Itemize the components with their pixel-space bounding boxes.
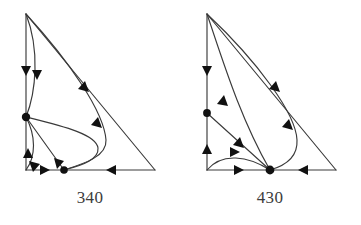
node-left-middle (22, 113, 30, 121)
directed-graph-430 (180, 0, 360, 185)
arrowhead-down-vertical-edge (202, 66, 212, 76)
edge-apex-to-bottomright (26, 14, 155, 170)
arrowhead-right-lower-bulge (230, 147, 240, 157)
caption-340: 340 (0, 188, 180, 208)
node-bottom-inner (266, 166, 275, 175)
edge-apex-to-bottomright (207, 14, 336, 170)
arrowhead-left-baseline (298, 165, 308, 175)
caption-430: 430 (180, 188, 360, 208)
arrowhead-right-baseline-inner (234, 165, 244, 175)
arrowhead-up-vertical-lower (202, 144, 212, 154)
diagram-panel-340: 340 (0, 0, 180, 225)
arrowhead-down-apex-curve (217, 95, 228, 106)
edge-apex-curve-to-bottominner (207, 14, 270, 170)
edge-apex-curve-to-leftmiddle (26, 14, 35, 117)
arrowhead-right-baseline-inner (40, 165, 50, 175)
arrowhead-down-vertical-edge (21, 66, 31, 76)
node-bottom-inner (60, 166, 68, 174)
node-left-middle (203, 109, 211, 117)
arrowhead-left-baseline (106, 165, 116, 175)
diagram-panel-430: 430 (180, 0, 360, 225)
arrowhead-up-leftmiddle-curve (23, 148, 33, 158)
edge-apex-loop-to-bottominner (26, 14, 106, 170)
arrowhead-down-apex-curve (32, 70, 42, 80)
figure-container: 340 (0, 0, 361, 225)
directed-graph-340 (0, 0, 180, 185)
edge-apex-loop-to-bottominner (207, 14, 297, 170)
